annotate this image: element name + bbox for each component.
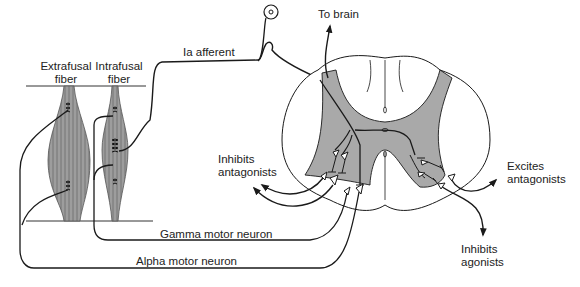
- gamma-motor-neuron-label: Gamma motor neuron: [160, 228, 273, 241]
- excites-antagonists-label: Excites antagonists: [507, 160, 566, 185]
- intrafusal-fiber-label: Intrafusal fiber: [93, 60, 145, 85]
- dorsal-root-ganglion: [264, 5, 278, 19]
- alpha-motor-neuron-label: Alpha motor neuron: [136, 255, 237, 268]
- inhibits-agonists-label: Inhibits agonists: [461, 243, 504, 268]
- extrafusal-fiber-label: Extrafusal fiber: [38, 60, 94, 85]
- intrafusal-fiber: [102, 86, 128, 221]
- inhibits-antagonists-label: Inhibits antagonists: [218, 153, 277, 178]
- extrafusal-fiber: [48, 86, 90, 221]
- ia-afferent-label: Ia afferent: [183, 46, 235, 59]
- to-brain-label: To brain: [318, 8, 359, 21]
